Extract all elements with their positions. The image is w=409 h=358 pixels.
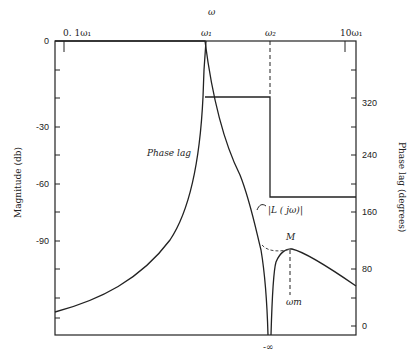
phase-lag-annotation: Phase lag [146,148,191,158]
phase-lag-curve [55,41,206,312]
phase-tick-160: 160 [362,207,377,217]
plot-frame [55,41,356,335]
left-ticks [55,70,60,318]
mag-tick-neg90: -90 [36,236,49,246]
M-peak-annotation: M [285,232,296,242]
right-ticks [351,70,356,326]
magnitude-axis-title: Magnitude (db) [13,147,23,218]
phase-tick-240: 240 [362,150,377,160]
tick-label-w2: ω₂ [265,28,276,38]
mag-tick-neg30: -30 [36,122,49,132]
magnitude-dashed-approx [262,245,292,251]
phase-axis-title: Phase lag (degrees) [397,142,407,232]
L-jw-pointer-arrow [257,205,266,210]
mag-tick-0: 0 [44,36,49,46]
phase-tick-80: 80 [362,264,372,274]
tick-label-0.1w1: 0. 1ω₁ [63,28,91,38]
phase-tick-320: 320 [362,98,377,108]
L-jw-annotation: |L ( jω)| [268,205,303,216]
magnitude-curve-main [55,41,268,335]
neg-infinity-annotation: -∞ [263,342,274,352]
omega-axis-label: ω [208,7,216,17]
mag-tick-neg60: -60 [36,179,49,189]
tick-label-10w1: 10ω₁ [340,28,362,38]
tick-label-w1: ω₁ [201,28,212,38]
bode-chart: ω 0. 1ω₁ ω₁ ω₂ 10ω₁ 0 -30 -60 -90 Magnit… [0,0,409,358]
magnitude-curve-after-notch [271,249,356,335]
wm-annotation: ωm [286,297,302,307]
phase-tick-0: 0 [362,321,367,331]
